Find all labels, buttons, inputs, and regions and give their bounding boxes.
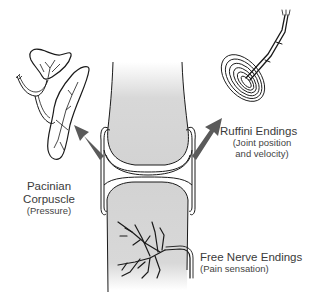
pacinian-corpuscle [16, 49, 89, 159]
arrow-to-pacinian-icon [74, 125, 104, 160]
pacinian-title-line1: Pacinian [10, 180, 88, 193]
ruffini-label: Ruffini Endings (Joint position and velo… [222, 125, 302, 160]
pacinian-label: Pacinian Corpuscle (Pressure) [10, 180, 88, 217]
ruffini-endings [213, 10, 290, 110]
free-nerve-label: Free Nerve Endings (Pain sensation) [200, 251, 302, 275]
arrow-to-ruffini-icon [192, 118, 222, 160]
pacinian-subtitle: (Pressure) [10, 206, 88, 217]
free-nerve-subtitle: (Pain sensation) [200, 264, 302, 275]
ruffini-subtitle-line2: and velocity) [222, 149, 302, 160]
upper-bone [108, 62, 189, 165]
lower-bone [104, 177, 192, 292]
